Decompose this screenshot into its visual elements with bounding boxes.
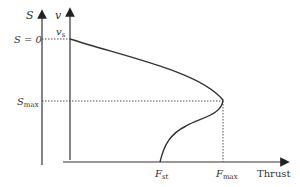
thrust-axis-label: Thrust [257,168,290,179]
vs-label: vs [56,26,66,39]
thrust-speed-diagram: S v S = 0 vs Smax Fst Fmax Thrust [0,0,300,187]
s-zero-label: S = 0 [14,34,43,45]
v-axis-label: v [55,9,62,22]
s-axis-label: S [26,9,34,22]
s-max-label: Smax [17,96,39,109]
f-max-label: Fmax [215,168,238,181]
f-st-label: Fst [154,168,169,181]
thrust-curve [70,39,223,162]
